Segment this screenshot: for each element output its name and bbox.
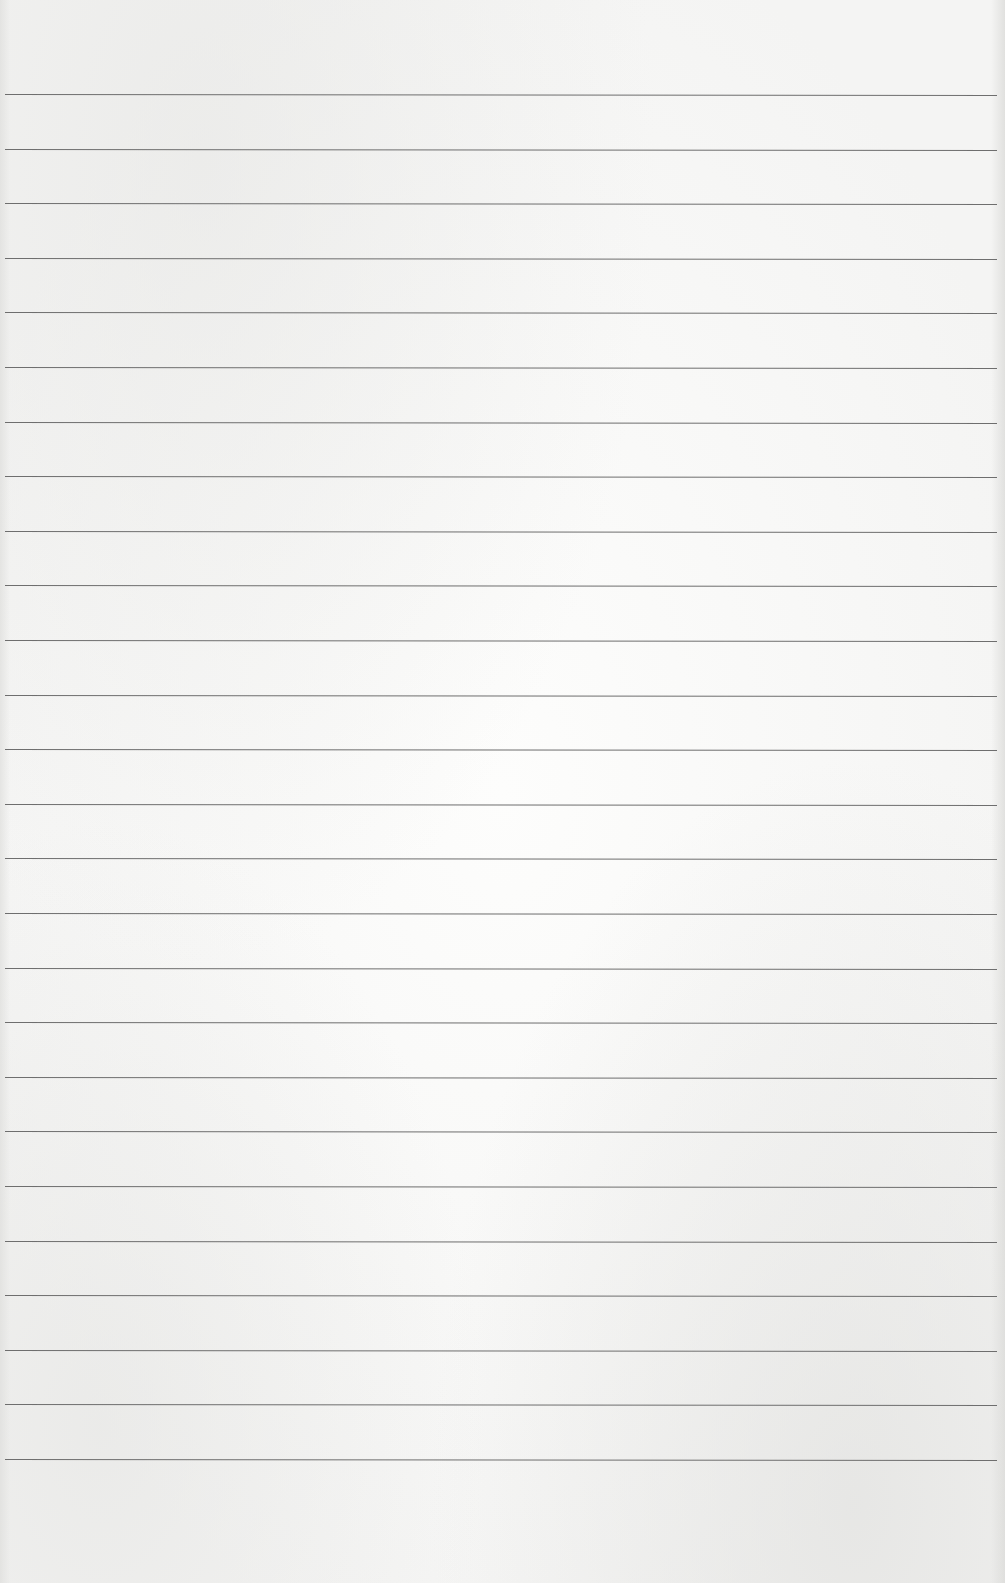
ruled-line [5,531,997,533]
ruled-line [5,858,997,860]
paper-right-edge [991,0,1005,1583]
ruled-line [5,149,997,151]
ruled-line [5,585,997,587]
ruled-line [5,258,997,260]
ruled-line [5,1131,997,1133]
ruled-line [5,476,997,478]
ruled-line [5,203,997,205]
ruled-line [5,749,997,751]
ruled-line [5,640,997,642]
ruled-line [5,94,997,96]
ruled-line [5,695,997,697]
ruled-line [5,1459,997,1461]
paper-left-edge [0,0,10,1583]
ruled-line [5,913,997,915]
ruled-line [5,1077,997,1079]
ruled-line [5,968,997,970]
ruled-line [5,1404,997,1406]
ruled-line [5,1295,997,1297]
ruled-line [5,312,997,314]
ruled-line [5,1241,997,1243]
ruled-line [5,367,997,369]
ruled-line [5,1350,997,1352]
ruled-line [5,422,997,424]
lined-paper [0,0,1005,1583]
ruled-line [5,804,997,806]
ruled-line [5,1186,997,1188]
ruled-line [5,1022,997,1024]
